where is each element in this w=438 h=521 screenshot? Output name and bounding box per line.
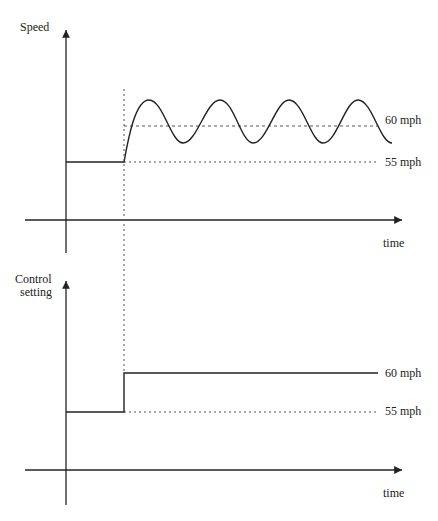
speed-60-label: 60 mph [385, 113, 421, 127]
speed-x-label: time [383, 236, 404, 250]
control-60-label: 60 mph [385, 366, 421, 380]
control-y-label-line1: Control [15, 272, 52, 286]
control-y-label-line2: setting [20, 285, 52, 299]
control-step [66, 373, 378, 412]
speed-chart: Speed time 60 mph 55 mph [20, 20, 421, 253]
speed-55-label: 55 mph [385, 155, 421, 169]
control-response-diagram: Speed time 60 mph 55 mph Control setting… [0, 0, 438, 521]
control-chart: Control setting time 60 mph 55 mph [15, 272, 421, 505]
speed-curve [66, 100, 392, 162]
speed-y-label: Speed [20, 20, 49, 34]
control-55-label: 55 mph [385, 404, 421, 418]
control-x-label: time [383, 486, 404, 500]
